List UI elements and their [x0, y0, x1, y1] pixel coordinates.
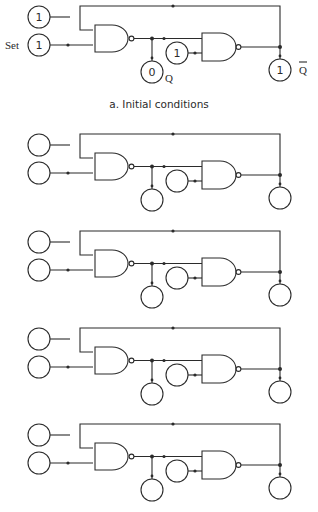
- top-input-node: [28, 328, 50, 350]
- circuit-panel-e: [28, 422, 291, 501]
- q-output-node: [141, 286, 163, 308]
- svg-text:1: 1: [36, 39, 43, 52]
- panel-a-caption: a. Initial conditions: [109, 98, 209, 110]
- q-bar-output-node: [269, 187, 291, 209]
- q-bar-output-node: [269, 477, 291, 499]
- circuit-panel-a: 1 Set 1 1 0 Q 1 Q: [5, 4, 307, 84]
- top-input-node: 1: [28, 6, 50, 28]
- svg-text:1: 1: [174, 47, 181, 60]
- q-bar-output-node: 1: [269, 59, 291, 81]
- q-output-node: [141, 189, 163, 211]
- top-input-node: [28, 231, 50, 253]
- circuit-panel-d: [28, 326, 291, 405]
- q-label: Q: [165, 72, 173, 84]
- svg-text:0: 0: [149, 66, 156, 79]
- top-input-node: [28, 424, 50, 446]
- feedback-input-node: [166, 364, 188, 386]
- set-label: Set: [5, 39, 19, 51]
- circuit-panel-c: [28, 229, 291, 308]
- svg-text:1: 1: [36, 11, 43, 24]
- q-bar-output-node: [269, 381, 291, 403]
- q-output-node: [141, 479, 163, 501]
- svg-text:1: 1: [277, 64, 284, 77]
- circuit-panel-b: [28, 132, 291, 211]
- set-input-node: [28, 259, 50, 281]
- set-input-node: [28, 162, 50, 184]
- feedback-input-node: [166, 170, 188, 192]
- q-bar-label: Q: [299, 64, 307, 76]
- q-output-node: [141, 383, 163, 405]
- q-output-node: 0: [141, 61, 163, 83]
- set-input-node: [28, 452, 50, 474]
- q-bar-output-node: [269, 284, 291, 306]
- feedback-input-node: [166, 460, 188, 482]
- top-input-node: [28, 134, 50, 156]
- set-input-node: 1: [28, 34, 50, 56]
- feedback-input-node: [166, 267, 188, 289]
- feedback-input-node: 1: [166, 42, 188, 64]
- set-input-node: [28, 356, 50, 378]
- nand-latch-diagram: 1 Set 1 1 0 Q 1 Q a. Initial conditions: [0, 0, 318, 512]
